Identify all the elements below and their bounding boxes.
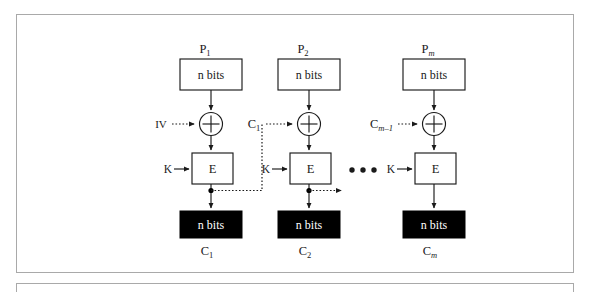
plaintext-m-label: Pm: [421, 42, 434, 58]
ciphertext-2-box-text: n bits: [296, 218, 323, 232]
block-m-group: Pm n bits Cm–1 E K n bits Cm: [370, 42, 465, 260]
ellipsis-dot-2: [360, 167, 365, 172]
iv-label: IV: [155, 118, 167, 130]
key-1-label: K: [164, 163, 173, 175]
key-m-label: K: [387, 163, 396, 175]
xor-m-input-label: Cm–1: [370, 117, 393, 133]
plaintext-2-box-text: n bits: [296, 68, 323, 82]
ellipsis-group: [349, 167, 376, 172]
ciphertext-1-box-text: n bits: [198, 218, 225, 232]
plaintext-1-box-text: n bits: [198, 68, 225, 82]
cipher-1-label: E: [209, 162, 217, 176]
ellipsis-dot-3: [371, 167, 376, 172]
ciphertext-m-box-text: n bits: [421, 218, 448, 232]
key-2-label: K: [262, 163, 271, 175]
cipher-2-label: E: [307, 162, 315, 176]
ellipsis-dot-1: [349, 167, 354, 172]
cipher-m-label: E: [432, 162, 440, 176]
plaintext-2-label: P2: [297, 42, 308, 58]
xor-2-input-label: C1: [248, 117, 261, 133]
ciphertext-1-label: C1: [201, 244, 214, 260]
plaintext-1-label: P1: [199, 42, 210, 58]
cbc-encryption-diagram: P1 n bits IV E K n bits C1 P2: [0, 0, 591, 292]
block-1-group: P1 n bits IV E K n bits C1: [155, 42, 262, 260]
ciphertext-m-label: Cm: [423, 244, 437, 260]
ciphertext-2-label: C2: [299, 244, 312, 260]
block-2-group: P2 n bits C1 E K n bits C2: [248, 42, 341, 260]
plaintext-m-box-text: n bits: [421, 68, 448, 82]
